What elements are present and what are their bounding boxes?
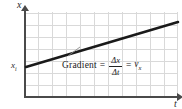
graph-figure: x t xi Gradient = Δx Δt = vx [0, 0, 182, 109]
velocity-term: vx [134, 60, 141, 71]
fraction-denominator: Δt [110, 68, 121, 77]
velocity-subscript: x [139, 64, 142, 71]
plot-area [0, 0, 182, 109]
equals-sign-first: = [100, 61, 105, 71]
gradient-annotation: Gradient = Δx Δt = vx [62, 56, 141, 76]
fraction-numerator: Δx [109, 56, 122, 65]
gradient-word-label: Gradient [62, 61, 97, 71]
equals-sign-second: = [126, 61, 131, 71]
delta-fraction: Δx Δt [109, 56, 122, 76]
